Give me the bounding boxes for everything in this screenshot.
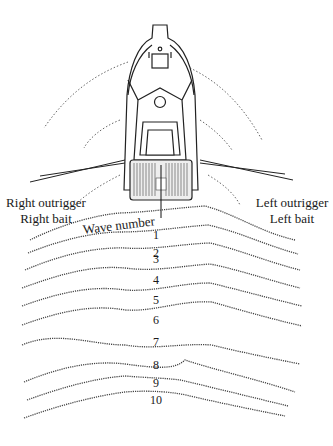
wave-number-8: 8 (149, 359, 163, 371)
wave-number-1: 1 (149, 229, 163, 241)
wave-number-4: 4 (149, 274, 163, 286)
right-outrigger-label: Right outrigger (6, 195, 86, 210)
wave-number-5: 5 (149, 294, 163, 306)
wave-number-9: 9 (149, 377, 163, 389)
wave-number-3: 3 (149, 253, 163, 265)
wave-number-7: 7 (149, 336, 163, 348)
wave-number-10: 10 (146, 394, 166, 406)
left-bait-label: Left bait (252, 211, 332, 226)
diagram-canvas: Right outrigger Right bait Left outrigge… (0, 0, 333, 446)
wave-number-6: 6 (149, 314, 163, 326)
right-bait-label: Right bait (6, 211, 86, 226)
left-outrigger-label: Left outrigger (252, 195, 332, 210)
